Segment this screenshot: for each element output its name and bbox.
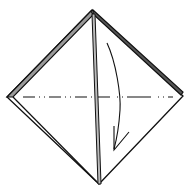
origami-diagram [0,0,186,186]
